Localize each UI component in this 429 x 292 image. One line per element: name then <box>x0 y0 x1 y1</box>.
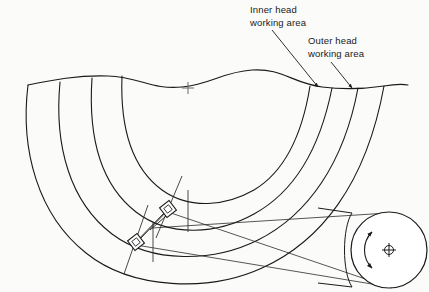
center-plus-mark <box>182 82 194 94</box>
band-line-upper <box>152 213 388 228</box>
rotating-drum <box>318 208 427 288</box>
break-line-wavy <box>28 70 408 89</box>
break-line-group <box>28 70 408 89</box>
leader-outer-head <box>331 62 352 88</box>
arc-third <box>91 78 332 230</box>
technical-diagram: Inner head working area Outer head worki… <box>0 0 429 292</box>
callout-label-inner-head: Inner head working area <box>250 4 306 29</box>
arc-outermost <box>26 85 384 284</box>
callout-label-outer-head: Outer head working area <box>308 35 364 60</box>
arc-innermost <box>122 76 310 204</box>
drum-body-bottom <box>318 283 352 287</box>
working-area-arcs <box>26 76 384 284</box>
diagram-canvas <box>0 0 429 292</box>
